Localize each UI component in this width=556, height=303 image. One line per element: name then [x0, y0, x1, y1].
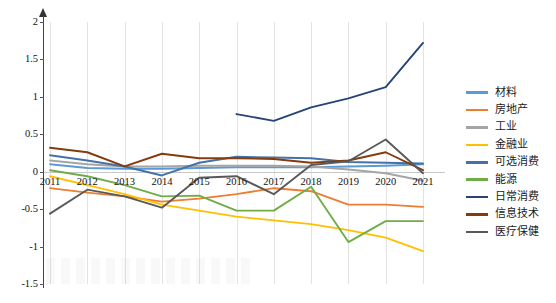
y-tickmark [40, 284, 44, 285]
x-tick-2021: 2021 [413, 177, 434, 187]
legend-swatch-icon [466, 161, 488, 164]
series-line-房地产 [50, 188, 423, 207]
x-tick-2017: 2017 [263, 177, 284, 187]
plot-area [44, 22, 439, 284]
legend-label: 金融业 [495, 139, 528, 151]
y-tick-1.5: 1.5 [0, 54, 38, 64]
legend-item-金融业[interactable]: 金融业 [466, 136, 554, 153]
x-tick-2019: 2019 [338, 177, 359, 187]
legend-item-房地产[interactable]: 房地产 [466, 101, 554, 118]
x-tick-2018: 2018 [301, 177, 322, 187]
x-tick-2012: 2012 [77, 177, 98, 187]
legend-label: 日常消费 [495, 191, 539, 203]
legend-label: 房地产 [495, 104, 528, 116]
series-line-金融业 [50, 176, 423, 251]
legend-item-材料[interactable]: 材料 [466, 84, 554, 101]
legend-item-能源[interactable]: 能源 [466, 171, 554, 188]
x-tick-2014: 2014 [151, 177, 172, 187]
legend-swatch-icon [466, 126, 488, 129]
legend-swatch-icon [466, 231, 488, 234]
y-tick--0.5: -0.5 [0, 204, 38, 214]
legend-label: 信息技术 [495, 208, 539, 220]
legend-swatch-icon [466, 91, 488, 94]
y-tick-1: 1 [0, 92, 38, 102]
x-tick-2011: 2011 [40, 177, 61, 187]
legend-item-医疗保健[interactable]: 医疗保健 [466, 223, 554, 240]
x-tick-2020: 2020 [375, 177, 396, 187]
y-tick--1: -1 [0, 242, 38, 252]
x-tick-2015: 2015 [189, 177, 210, 187]
y-tick-0: 0 [0, 167, 38, 177]
legend-swatch-icon [466, 213, 488, 216]
x-tick-2013: 2013 [114, 177, 135, 187]
legend-label: 医疗保健 [495, 226, 539, 238]
legend-swatch-icon [466, 144, 488, 147]
legend-item-信息技术[interactable]: 信息技术 [466, 206, 554, 223]
x-tick-2016: 2016 [226, 177, 247, 187]
legend-item-日常消费[interactable]: 日常消费 [466, 188, 554, 205]
legend-swatch-icon [466, 196, 488, 199]
legend-label: 材料 [495, 87, 517, 99]
legend-label: 能源 [495, 174, 517, 186]
legend-swatch-icon [466, 109, 488, 112]
y-tick--1.5: -1.5 [0, 279, 38, 289]
legend-item-可选消费[interactable]: 可选消费 [466, 154, 554, 171]
legend-label: 工业 [495, 121, 517, 133]
y-tick-0.5: 0.5 [0, 129, 38, 139]
legend: 材料房地产工业金融业可选消费能源日常消费信息技术医疗保健 [466, 84, 554, 241]
series-lines [44, 22, 439, 284]
legend-label: 可选消费 [495, 156, 539, 168]
legend-swatch-icon [466, 178, 488, 181]
legend-item-工业[interactable]: 工业 [466, 119, 554, 136]
y-tick-2: 2 [0, 17, 38, 27]
series-line-日常消费 [237, 43, 424, 121]
line-chart: 21.510.50-0.5-1-1.5 20112012201320142015… [0, 0, 556, 303]
